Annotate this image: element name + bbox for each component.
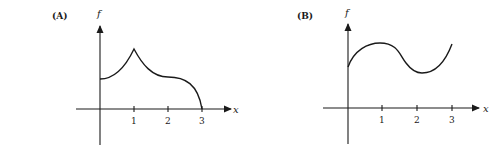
graph-b: (B) f x 1 2 3 [297, 7, 489, 144]
tick-label-3-b: 3 [449, 115, 455, 125]
tick-label-3-a: 3 [199, 116, 205, 126]
tick-label-2-a: 2 [165, 116, 171, 126]
panel-label-a: (A) [52, 11, 68, 21]
graph-a: (A) f x 1 2 3 [52, 8, 239, 145]
y-axis-label-b: f [344, 7, 351, 18]
curve-a [100, 49, 202, 109]
tick-label-2-b: 2 [414, 115, 420, 125]
y-axis-label-a: f [96, 8, 103, 19]
tick-label-1-b: 1 [379, 115, 385, 125]
x-axis-label-a: x [233, 104, 239, 115]
curve-b [348, 43, 452, 73]
tick-label-1-a: 1 [131, 116, 137, 126]
panel-label-b: (B) [297, 11, 313, 21]
x-axis-label-b: x [483, 103, 489, 114]
